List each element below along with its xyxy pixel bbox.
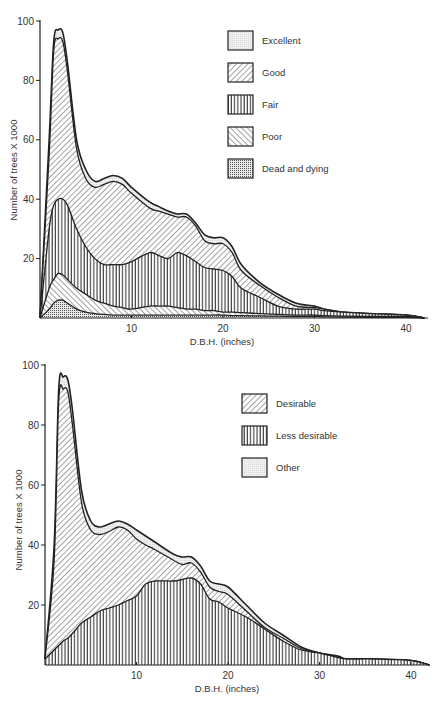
legend-item-other: Other [242,458,300,477]
x-tick-label: 10 [131,670,143,681]
legend-item-good: Good [228,63,285,82]
legend-item-poor: Poor [228,127,282,146]
y-tick-label: 60 [23,134,35,145]
legend-label: Less desirable [276,430,337,441]
y-tick-label: 20 [23,253,35,264]
y-ticks: 20406080100 [22,360,45,611]
x-tick-label: 20 [217,323,229,334]
legend-item-less-desirable: Less desirable [242,426,337,445]
y-tick-label: 100 [17,16,34,27]
legend-label: Other [276,462,300,473]
y-axis-label: Number of trees X 1000 [8,120,19,221]
y-tick-label: 20 [28,600,40,611]
legend-swatch [228,127,253,146]
y-tick-label: 60 [28,480,40,491]
legend-label: Desirable [276,398,316,409]
legend-swatch [228,63,253,82]
legend: DesirableLess desirableOther [242,394,337,477]
x-axis-label: D.B.H. (inches) [195,683,259,694]
legend-swatch [242,394,267,413]
y-tick-label: 80 [23,75,35,86]
legend-swatch [228,95,253,114]
legend-label: Good [262,67,285,78]
legend-item-fair: Fair [228,95,278,114]
legend-label: Fair [262,99,278,110]
chart-tree-condition: 20406080100 10203040 Number of trees X 1… [8,16,428,348]
chart-areas [45,373,429,665]
y-axis-label: Number of trees X 1000 [13,470,24,571]
legend-swatch [242,458,267,477]
y-ticks: 20406080100 [17,16,40,265]
y-tick-label: 100 [22,360,39,371]
legend-label: Excellent [262,35,301,46]
y-tick-label: 40 [23,194,35,205]
legend-item-excellent: Excellent [228,31,301,50]
x-axis-label: D.B.H. (inches) [190,336,254,347]
legend-label: Dead and dying [262,163,329,174]
legend-label: Poor [262,131,282,142]
legend-item-desirable: Desirable [242,394,316,413]
y-tick-label: 80 [28,420,40,431]
x-tick-label: 30 [309,323,321,334]
y-tick-label: 40 [28,540,40,551]
x-tick-label: 40 [400,323,412,334]
x-tick-label: 30 [314,670,326,681]
legend-item-dead-and-dying: Dead and dying [228,159,329,178]
x-tick-label: 10 [126,323,138,334]
legend-swatch [228,31,253,50]
figure: 20406080100 10203040 Number of trees X 1… [0,0,446,702]
legend: ExcellentGoodFairPoorDead and dying [228,31,329,178]
legend-swatch [228,159,253,178]
x-tick-label: 40 [405,670,417,681]
legend-swatch [242,426,267,445]
chart-tree-desirability: 20406080100 10203040 Number of trees X 1… [13,360,430,695]
x-tick-label: 20 [222,670,234,681]
